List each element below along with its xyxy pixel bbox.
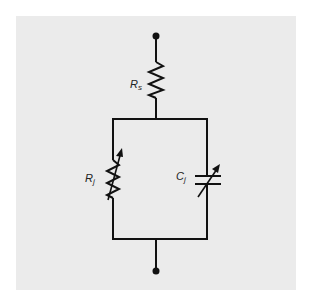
top-terminal-dot-icon	[153, 33, 160, 40]
series-resistor-icon	[149, 62, 163, 98]
circuit-diagram: Rs Rj Cj	[0, 0, 309, 303]
bottom-terminal-dot-icon	[153, 268, 160, 275]
cj-label: Cj	[176, 170, 186, 184]
rs-label: Rs	[130, 78, 142, 92]
rj-label: Rj	[85, 172, 95, 186]
parallel-branch-loop	[113, 119, 207, 239]
junction-variable-resistor-icon	[107, 148, 123, 200]
